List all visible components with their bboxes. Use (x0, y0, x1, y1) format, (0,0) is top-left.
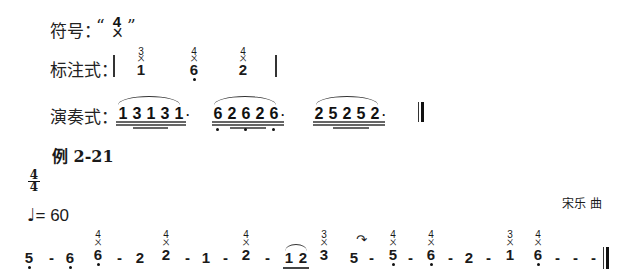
symbol-label: 符号： (50, 17, 101, 42)
score-note: 4ㄨ6 (92, 230, 104, 266)
score-dash: - (265, 249, 270, 266)
notation-note-1: 3 ㄨ 1 (134, 47, 148, 77)
score-note: 4ㄨ5 (387, 230, 399, 266)
underline-2a (212, 121, 284, 123)
example-title: 例 2-21 (52, 143, 114, 167)
tempo-marking: ♩= 60 (27, 204, 69, 226)
low-dot-2c (272, 128, 275, 131)
score-dash: - (591, 249, 596, 266)
underline-3b (313, 124, 385, 126)
score-dash: - (573, 249, 578, 266)
score-dash: - (185, 249, 190, 266)
bar-line-end (275, 55, 277, 77)
open-quote: “ (96, 15, 105, 35)
underline-1b (116, 124, 186, 126)
low-dot-2b (244, 128, 247, 131)
underline-2c (230, 127, 266, 129)
underline-3a (313, 121, 385, 123)
performance-label: 演奏式： (50, 103, 118, 128)
low-dot-2a (216, 128, 219, 131)
score-dash: - (408, 249, 413, 266)
notation-label: 标注式： (50, 56, 118, 81)
cross-mark: ㄨ (110, 28, 124, 39)
eighth-underline (283, 267, 309, 269)
composer-credit: 宋乐 曲 (562, 194, 602, 211)
underline-2b (212, 124, 284, 126)
score-dash: - (369, 249, 374, 266)
score-note: 3ㄨ3 (318, 230, 330, 262)
score-dash: - (223, 249, 228, 266)
notation-note-2: 4 ㄨ 6 (187, 47, 201, 81)
underline-3c (333, 127, 369, 129)
bar-line-start (113, 55, 115, 77)
score-dash: - (486, 249, 491, 266)
close-quote: ” (127, 15, 136, 35)
score-final-barline-thin (603, 247, 604, 269)
slur-group-2 (214, 96, 276, 105)
turn-icon: ↷ (356, 232, 367, 247)
score-note: 4ㄨ6 (532, 230, 544, 266)
score-note: 1 (283, 250, 295, 265)
score-note: 3ㄨ1 (504, 230, 516, 262)
score-final-barline-thick (606, 247, 609, 269)
slur-group-3 (316, 96, 378, 105)
score-dash: - (117, 249, 122, 266)
low-octave-dot (193, 78, 196, 81)
slur-group-1 (118, 96, 180, 105)
score-note: 4ㄨ2 (240, 230, 252, 262)
notation-note-3: 4 ㄨ 2 (236, 47, 250, 77)
score-note: 1 (200, 250, 212, 265)
score-note: 2 (463, 250, 475, 265)
underline-1c (133, 127, 168, 129)
final-barline-thick (421, 102, 424, 122)
final-barline-thin (418, 102, 419, 122)
underline-1a (116, 121, 186, 123)
score-dash: - (555, 249, 560, 266)
score-note: 2 (297, 250, 309, 265)
time-signature: 4 4 (28, 170, 40, 193)
score-note: 4ㄨ2 (160, 230, 172, 262)
score-note: 4ㄨ6 (425, 230, 437, 266)
finger-symbol: 4 ㄨ (110, 15, 124, 39)
score-note: 6 (64, 250, 76, 269)
score-note: 5 (23, 250, 35, 269)
score-note: 5 (348, 250, 360, 265)
score-dash: - (448, 249, 453, 266)
score-dash: - (49, 249, 54, 266)
quarter-note-icon: ♩ (27, 204, 36, 225)
score-note: 2 (134, 250, 146, 265)
